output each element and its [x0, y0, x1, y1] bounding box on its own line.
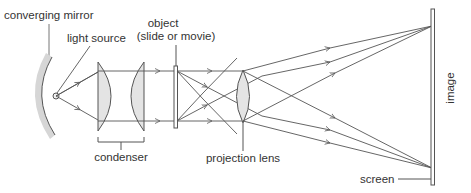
label-object: object	[148, 17, 179, 29]
ray-source-bottom	[56, 96, 98, 120]
ray-img-top-1	[243, 26, 432, 71]
ray-obj-top-low	[177, 71, 237, 134]
projection-lens	[237, 70, 250, 123]
ray-img-top-3	[243, 26, 432, 121]
label-image: image	[444, 72, 456, 103]
projector-diagram: converging mirror light source object (s…	[0, 0, 471, 193]
label-light-source: light source	[67, 32, 126, 44]
ray-obj-bottom-high	[177, 58, 237, 121]
screen	[431, 9, 435, 185]
label-object-sub: (slide or movie)	[137, 30, 216, 42]
label-converging-mirror: converging mirror	[4, 9, 94, 21]
label-screen: screen	[360, 173, 395, 185]
converging-mirror-backing	[35, 53, 55, 139]
label-condenser: condenser	[94, 151, 148, 163]
ray-source-top-arrow	[56, 72, 98, 96]
label-projection-lens: projection lens	[206, 152, 280, 164]
condenser-bracket	[98, 137, 144, 150]
object-slide	[174, 66, 178, 128]
ray-img-top-2	[262, 26, 432, 76]
